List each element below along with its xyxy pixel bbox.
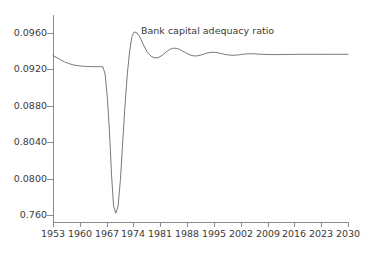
series-line-bank-capital-adequacy-ratio: [53, 32, 348, 213]
series-plot-area: [0, 0, 366, 256]
series-annotation-label: Bank capital adequacy ratio: [141, 26, 274, 36]
chart-container: 0.09600.09200.08800.80400.08000.760 1953…: [0, 0, 366, 256]
